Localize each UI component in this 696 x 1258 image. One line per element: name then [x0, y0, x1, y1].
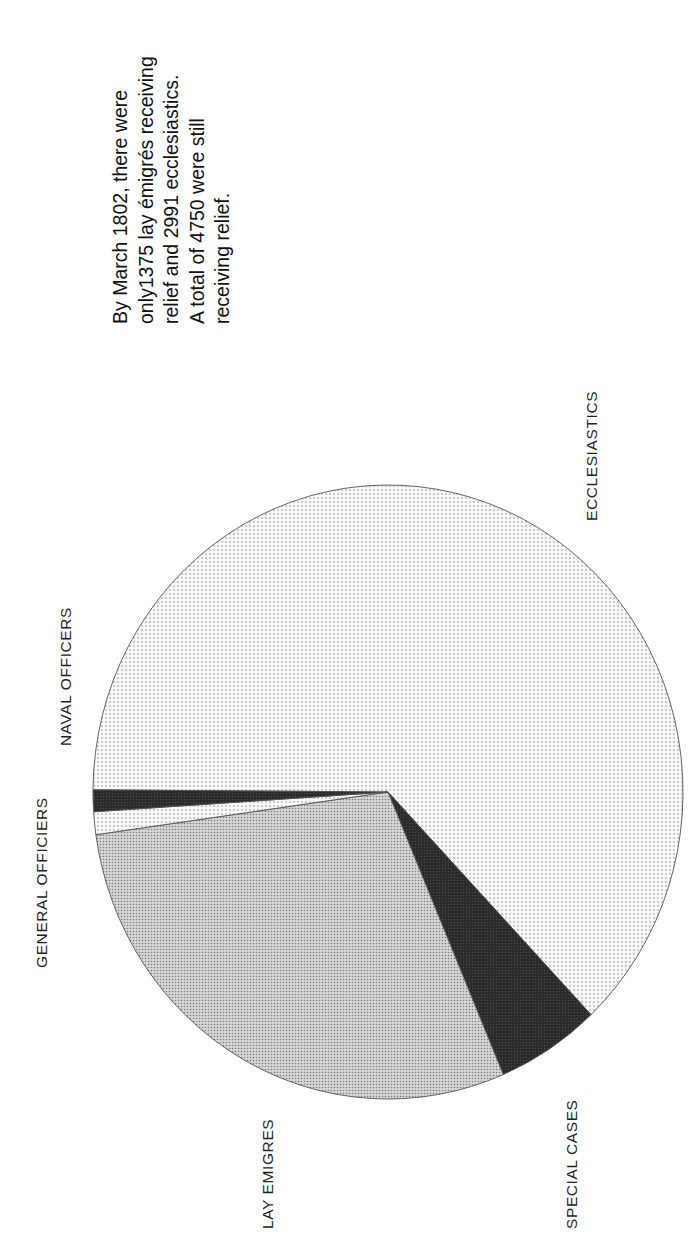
annotation-line: relief and 2991 ecclesiastics. [159, 24, 185, 324]
label-special-cases: SPECIAL CASES [564, 1099, 580, 1229]
annotation-line: A total of 4750 were still [185, 24, 211, 324]
label-general-officiers: GENERAL OFFICIERS [34, 797, 50, 968]
pie-chart [0, 0, 696, 1258]
annotation-line: only1375 lay émigrés receiving [134, 24, 160, 324]
annotation-text: By March 1802, there were only1375 lay é… [108, 24, 236, 324]
label-naval-officers: NAVAL OFFICERS [58, 607, 74, 746]
annotation-line: By March 1802, there were [108, 24, 134, 324]
label-lay-emigres: LAY EMIGRES [260, 1119, 276, 1229]
annotation-line: receiving relief. [210, 24, 236, 324]
label-ecclesiastics: ECCLESIASTICS [584, 391, 600, 521]
pie-slices [93, 485, 683, 1099]
